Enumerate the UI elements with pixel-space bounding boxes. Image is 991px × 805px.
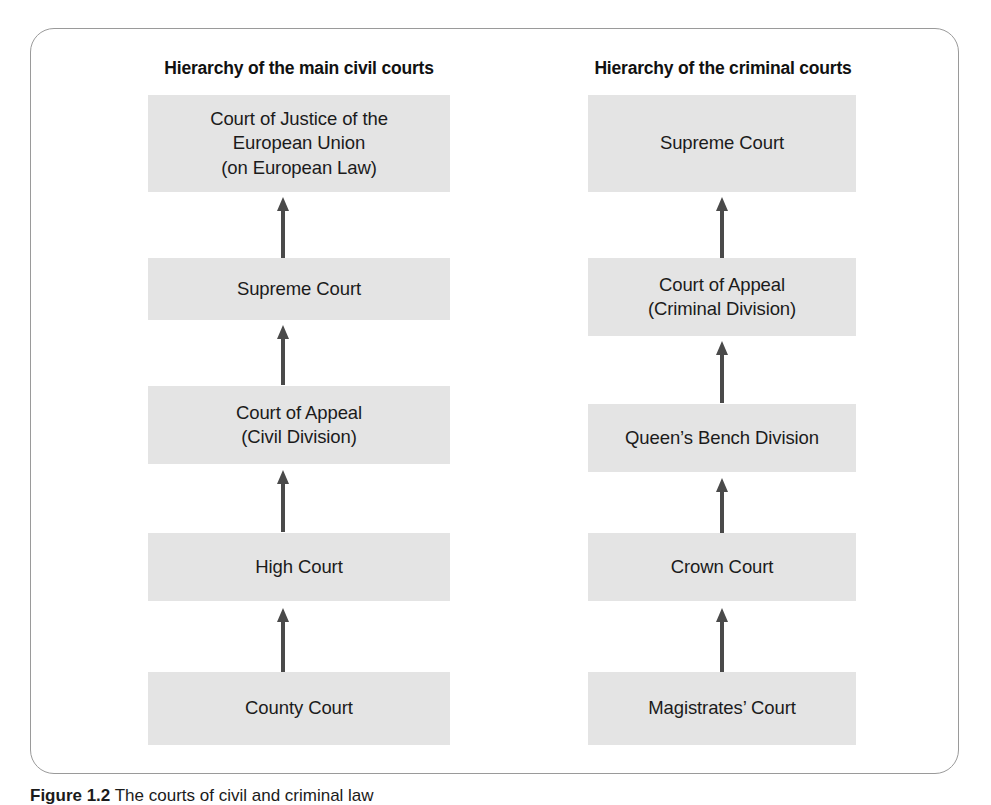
- court-box-line: Queen’s Bench Division: [625, 426, 819, 450]
- court-box-cjeu: Court of Justice of the European Union (…: [148, 95, 450, 192]
- court-box-line: Court of Justice of the: [210, 107, 388, 131]
- arrow-appeal-to-supreme-civil: [276, 325, 290, 385]
- court-box-county-court: County Court: [148, 672, 450, 745]
- figure-caption-label: Figure 1.2: [30, 786, 110, 805]
- arrow-supreme-to-cjeu: [276, 197, 290, 258]
- court-box-line: (on European Law): [210, 156, 388, 180]
- court-box-line: European Union: [210, 131, 388, 155]
- figure-caption: Figure 1.2 The courts of civil and crimi…: [30, 786, 930, 805]
- court-box-line: (Criminal Division): [648, 297, 796, 321]
- court-box-line: High Court: [255, 555, 342, 579]
- court-box-line: Court of Appeal: [648, 273, 796, 297]
- court-box-court-of-appeal-civil: Court of Appeal (Civil Division): [148, 386, 450, 464]
- court-box-line: Crown Court: [671, 555, 774, 579]
- court-box-line: Supreme Court: [660, 131, 784, 155]
- arrow-county-to-high-court: [276, 608, 290, 672]
- civil-column-heading: Hierarchy of the main civil courts: [148, 58, 450, 79]
- court-box-line: (Civil Division): [236, 425, 362, 449]
- court-box-court-of-appeal-criminal: Court of Appeal (Criminal Division): [588, 258, 856, 336]
- court-box-supreme-court-criminal: Supreme Court: [588, 95, 856, 192]
- arrow-appeal-to-supreme-criminal: [715, 197, 729, 258]
- arrow-qbd-to-appeal-criminal: [715, 341, 729, 403]
- court-box-queens-bench-division: Queen’s Bench Division: [588, 404, 856, 472]
- arrow-magistrates-to-crown: [715, 608, 729, 672]
- figure-root: Hierarchy of the main civil courts Court…: [0, 0, 991, 805]
- court-box-line: Supreme Court: [237, 277, 361, 301]
- court-box-line: Magistrates’ Court: [648, 696, 796, 720]
- court-box-line: Court of Appeal: [236, 401, 362, 425]
- court-box-crown-court: Crown Court: [588, 533, 856, 601]
- court-box-magistrates-court: Magistrates’ Court: [588, 672, 856, 745]
- arrow-crown-to-qbd: [715, 478, 729, 534]
- court-box-supreme-court-civil: Supreme Court: [148, 258, 450, 320]
- court-box-high-court: High Court: [148, 533, 450, 601]
- criminal-column-heading: Hierarchy of the criminal courts: [572, 58, 874, 79]
- figure-caption-text: The courts of civil and criminal law: [115, 786, 374, 805]
- court-box-line: County Court: [245, 696, 353, 720]
- arrow-high-court-to-appeal-civil: [276, 470, 290, 532]
